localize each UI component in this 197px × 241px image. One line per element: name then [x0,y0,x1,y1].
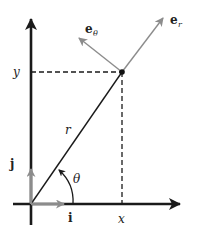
unit-j-label: j [9,157,14,171]
e-theta-label: e θ [85,22,98,38]
svg-text:θ: θ [93,29,98,38]
e-r-label: e r [170,13,183,29]
point-marker [119,69,125,75]
x-value-label: x [118,212,125,226]
svg-text:r: r [178,20,183,29]
unit-vector-e-theta [79,38,122,72]
svg-text:e: e [170,13,178,27]
radius-label: r [65,123,72,137]
polar-coordinates-diagram: y x r θ i j e θ e r [0,0,197,241]
y-value-label: y [12,65,20,79]
unit-i-label: i [68,211,73,225]
theta-angle-arc [59,170,73,204]
unit-vector-e-r [122,18,163,72]
theta-label: θ [73,172,81,186]
svg-text:e: e [85,22,93,36]
